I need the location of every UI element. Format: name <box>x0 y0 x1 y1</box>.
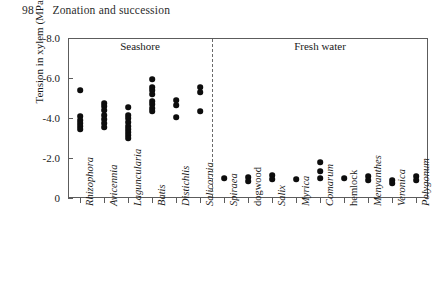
x-tick-label-salicornia: Salicornia <box>204 162 215 206</box>
data-point <box>149 91 155 97</box>
y-tick-label-1: -6.0 <box>26 72 60 84</box>
data-point <box>173 102 179 108</box>
x-tick-mark-0 <box>80 198 81 203</box>
data-point <box>365 177 371 183</box>
data-point <box>149 108 155 114</box>
x-tick-mark-13 <box>392 198 393 203</box>
data-point <box>77 87 83 93</box>
data-point <box>197 89 203 95</box>
x-tick-mark-12 <box>368 198 369 203</box>
x-tick-label-dogwood: dogwood <box>252 167 263 206</box>
y-tick-mark-4 <box>68 198 73 199</box>
x-tick-mark-2 <box>128 198 129 203</box>
x-tick-mark-8 <box>272 198 273 203</box>
y-tick-label-0: -8.0 <box>26 32 60 44</box>
zone-label-right: Fresh water <box>294 40 346 52</box>
x-tick-mark-1 <box>104 198 105 203</box>
data-point <box>77 126 83 132</box>
y-tick-mark-3 <box>68 158 73 159</box>
x-tick-mark-3 <box>152 198 153 203</box>
x-tick-label-distichlis: Distichlis <box>180 166 191 206</box>
x-tick-mark-4 <box>176 198 177 203</box>
data-point <box>173 114 179 120</box>
y-tick-mark-1 <box>68 78 73 79</box>
data-point <box>293 176 299 182</box>
x-tick-label-salix: Salix <box>276 185 287 206</box>
data-point <box>317 168 323 174</box>
x-tick-label-myrica: Myrica <box>300 176 311 206</box>
data-point <box>245 178 251 184</box>
data-point <box>125 135 131 141</box>
x-tick-mark-5 <box>200 198 201 203</box>
data-point <box>197 108 203 114</box>
data-point <box>317 159 323 165</box>
data-point <box>269 176 275 182</box>
x-tick-mark-9 <box>296 198 297 203</box>
data-point <box>341 175 347 181</box>
x-tick-label-hemlock: hemlock <box>348 170 359 206</box>
data-point <box>101 124 107 130</box>
data-point <box>149 76 155 82</box>
x-tick-label-laguncularia: Laguncularia <box>132 149 143 206</box>
x-tick-mark-6 <box>224 198 225 203</box>
y-tick-label-2: -4.0 <box>26 112 60 124</box>
x-tick-label-menyanthes: Menyanthes <box>372 155 383 206</box>
y-tick-label-3: -2.0 <box>26 152 60 164</box>
x-tick-mark-10 <box>320 198 321 203</box>
zone-divider <box>212 39 213 197</box>
x-tick-label-polygonum: Polygonum <box>420 158 431 206</box>
y-tick-mark-0 <box>68 38 73 39</box>
x-tick-label-batis: Batis <box>156 184 167 206</box>
scatter-chart: Tension in xylem (MPa) -8.0-6.0-4.0-2.00… <box>0 0 441 290</box>
data-point <box>317 175 323 181</box>
x-tick-label-comarum: Comarum <box>324 164 335 206</box>
data-point <box>125 104 131 110</box>
x-tick-mark-14 <box>416 198 417 203</box>
data-point <box>413 177 419 183</box>
y-tick-mark-2 <box>68 118 73 119</box>
data-point <box>221 175 227 181</box>
zone-label-left: Seashore <box>120 40 160 52</box>
x-tick-label-veronica: Veronica <box>396 169 407 206</box>
x-tick-label-avicennia: Avicennia <box>108 165 119 206</box>
y-tick-label-4: 0 <box>26 192 60 204</box>
data-point <box>389 180 395 186</box>
x-tick-mark-11 <box>344 198 345 203</box>
x-tick-mark-7 <box>248 198 249 203</box>
x-tick-label-spiraea: Spiraea <box>228 173 239 206</box>
x-tick-label-rhizophora: Rhizophora <box>84 157 95 206</box>
